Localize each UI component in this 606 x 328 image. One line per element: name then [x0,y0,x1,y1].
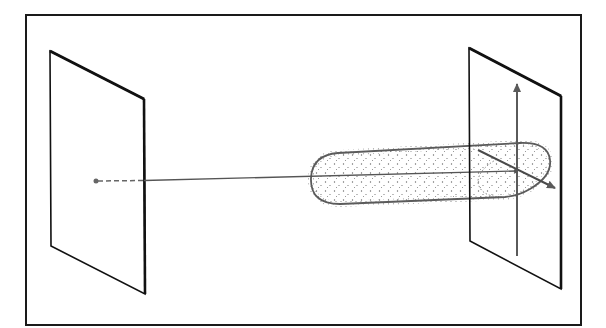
beam-dashed-segment [98,181,144,182]
source-plane [50,51,145,294]
source-point [94,179,99,184]
diagram-canvas [0,0,606,328]
target-point [514,169,518,173]
